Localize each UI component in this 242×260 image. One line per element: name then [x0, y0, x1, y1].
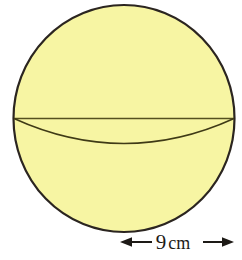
sphere-figure-svg	[0, 0, 242, 260]
figure-root: 9cm	[0, 0, 242, 260]
dimension-label: 9cm	[0, 231, 242, 254]
dimension-unit: cm	[168, 233, 190, 253]
dimension-value: 9	[156, 230, 167, 254]
